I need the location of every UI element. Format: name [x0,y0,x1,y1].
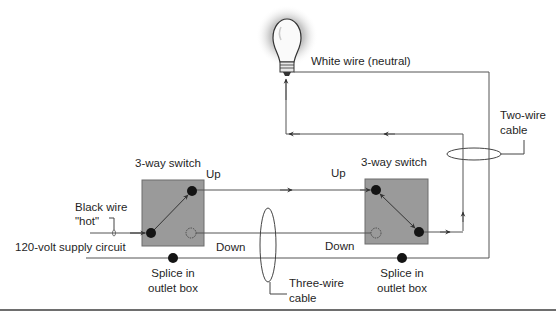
three-wire-cable-ellipse [260,208,276,282]
two-wire-cable-label-2: cable [500,123,528,137]
three-wire-cable-label-2: cable [289,291,317,305]
splice-right-label: Splice in [366,266,438,280]
switch-left-label: 3-way switch [135,156,201,170]
splice-right-label-2: outlet box [366,281,438,295]
three-wire-cable-label: Three-wire [289,276,344,290]
splice-left-label: Splice in [143,266,203,280]
switch-right-label: 3-way switch [361,155,427,169]
terminal-common-right [414,227,424,237]
light-bulb-icon [256,5,318,76]
splice-left-label-2: outlet box [143,281,203,295]
up-left-label: Up [206,167,221,181]
up-right-label: Up [331,166,346,180]
down-left-label: Down [216,240,245,254]
two-wire-cable-ellipse [447,148,501,160]
black-wire-hot-label: "hot" [75,214,99,228]
splice-dot-right [397,253,407,263]
supply-circuit-label: 120-volt supply circuit [15,240,126,254]
white-wire-label: White wire (neutral) [311,54,411,68]
down-right-label: Down [325,239,354,253]
black-wire-label: Black wire [75,200,127,214]
terminal-up-left [187,186,197,196]
terminal-up-right [371,185,381,195]
terminal-common-left [146,228,156,238]
wiring-diagram [0,0,556,316]
splice-dot-left [168,253,178,263]
two-wire-cable-label: Two-wire [500,108,546,122]
